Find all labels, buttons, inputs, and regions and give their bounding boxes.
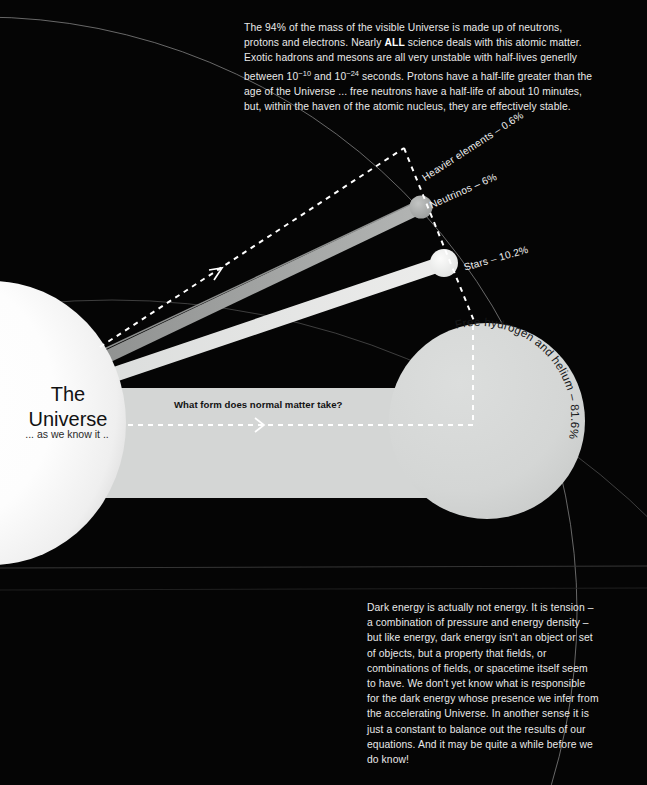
page-subtitle: ... as we know it .. — [6, 428, 128, 440]
dark-energy-paragraph: Dark energy is actually not energy. It i… — [367, 600, 599, 767]
intro-line-3c: seconds. Protons have a — [359, 71, 478, 82]
page-title-line1: The — [8, 382, 128, 407]
intro-exponent-1: −10 — [298, 69, 311, 78]
intro-paragraph: The 94% of the mass of the visible Unive… — [244, 20, 596, 115]
intro-emphasis-all: ALL — [384, 37, 404, 48]
page-title: The Universe — [8, 382, 128, 432]
intro-line-2a: Nearly — [351, 37, 384, 48]
dashed-bracket-diagonal — [100, 148, 404, 347]
intro-line-3b: and 10 — [311, 71, 346, 82]
infographic-canvas: Free hydrogen and helium – 81.6% Heavier… — [0, 0, 647, 785]
flow-question-label: What form does normal matter take? — [174, 399, 343, 410]
intro-exponent-2: −24 — [346, 69, 359, 78]
